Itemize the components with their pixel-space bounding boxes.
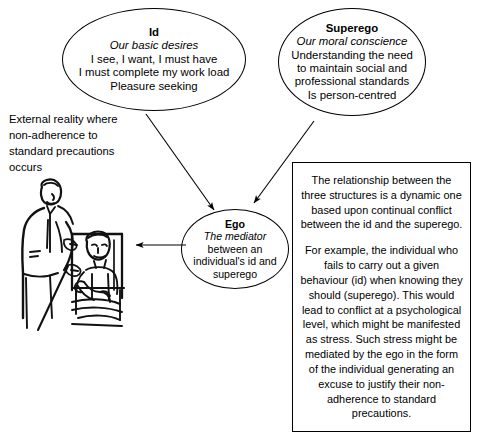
nurse-patient-illustration-svg [14,178,138,336]
external-reality-line-4: occurs [9,159,144,175]
node-superego-line-3: professional standards [295,75,410,88]
node-superego-line-1: Understanding the need [291,49,413,62]
node-superego-subtitle: Our moral conscience [297,35,408,48]
external-reality-label: External reality where non-adherence to … [9,111,144,175]
diagram-canvas: Id Our basic desires I see, I want, I mu… [0,0,481,448]
explanation-text-box: The relationship between the three struc… [292,162,471,432]
node-id-line-1: I see, I want, I must have [91,53,218,66]
arrow-id-to-ego [146,114,214,210]
node-superego-line-2: to maintain social and [297,62,407,75]
nurse-patient-illustration [14,178,138,336]
explanation-paragraph-2: For example, the individual who fails to… [300,243,463,421]
external-reality-line-3: standard precautions [9,143,144,159]
node-id-line-2: I must complete my work load [79,66,230,79]
node-superego-title: Superego [326,22,379,35]
node-superego-line-4: Is person-centred [308,89,397,102]
external-reality-line-1: External reality where [9,111,144,127]
external-reality-line-2: non-adherence to [9,127,144,143]
node-ego-title: Ego [225,218,245,230]
node-id-title: Id [149,26,159,39]
node-id-subtitle: Our basic desires [110,39,199,52]
node-id-line-3: Pleasure seeking [110,80,197,93]
node-superego: Superego Our moral conscience Understand… [278,8,426,116]
node-ego-subtitle: The mediator [204,230,266,242]
node-ego-line-2: individual's id and [193,255,276,267]
explanation-paragraph-1: The relationship between the three struc… [300,173,463,232]
node-id: Id Our basic desires I see, I want, I mu… [62,8,246,111]
node-ego-line-1: between an [208,243,263,255]
node-ego-line-3: superego [213,268,257,280]
node-ego: Ego The mediator between an individual's… [181,209,289,289]
